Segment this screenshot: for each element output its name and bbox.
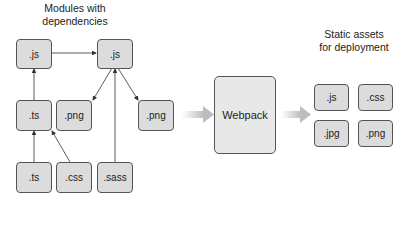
module-png-1: .png	[56, 100, 92, 131]
asset-css: .css	[358, 84, 393, 111]
module-js-1: .js	[16, 39, 52, 69]
module-ts-1: .ts	[16, 100, 52, 131]
flow-arrow-right	[281, 106, 311, 123]
module-ts-2: .ts	[16, 162, 52, 193]
asset-js: .js	[314, 84, 349, 111]
asset-png: .png	[358, 120, 393, 147]
module-sass: .sass	[97, 162, 133, 193]
module-css: .css	[56, 162, 92, 193]
module-png-2: .png	[138, 100, 174, 131]
module-js-2: .js	[97, 39, 133, 69]
webpack-box: Webpack	[214, 76, 276, 154]
flow-arrow-left	[182, 106, 214, 123]
asset-jpg: .jpg	[314, 120, 349, 147]
